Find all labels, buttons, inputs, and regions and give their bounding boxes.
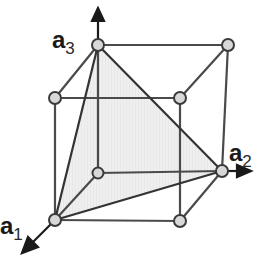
unit-cell-diagram: a3 a2 a1	[0, 0, 267, 268]
edge-back-right	[222, 45, 228, 171]
node-a3	[92, 39, 104, 51]
node-a2	[216, 165, 228, 177]
edge-front-bottom	[55, 220, 180, 221]
node-back-top-right	[222, 39, 234, 51]
node-a1	[49, 214, 61, 226]
node-front-top-right	[174, 92, 186, 104]
node-front-top-left	[49, 92, 61, 104]
node-front-bottom-right	[174, 215, 186, 227]
edge-top-right-depth	[180, 45, 228, 98]
label-a1: a1	[0, 212, 23, 244]
label-a3: a3	[52, 26, 75, 58]
node-origin	[93, 168, 104, 179]
arrow-up-icon	[92, 8, 104, 21]
